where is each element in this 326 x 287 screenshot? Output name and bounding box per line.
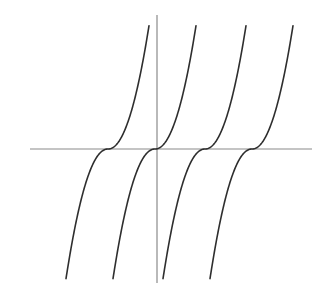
curve-4: [210, 26, 293, 279]
curve-1: [66, 26, 149, 279]
curves-group: [66, 26, 293, 279]
curve-3: [163, 26, 246, 279]
curve-2: [113, 26, 196, 279]
function-plot: [0, 0, 326, 287]
